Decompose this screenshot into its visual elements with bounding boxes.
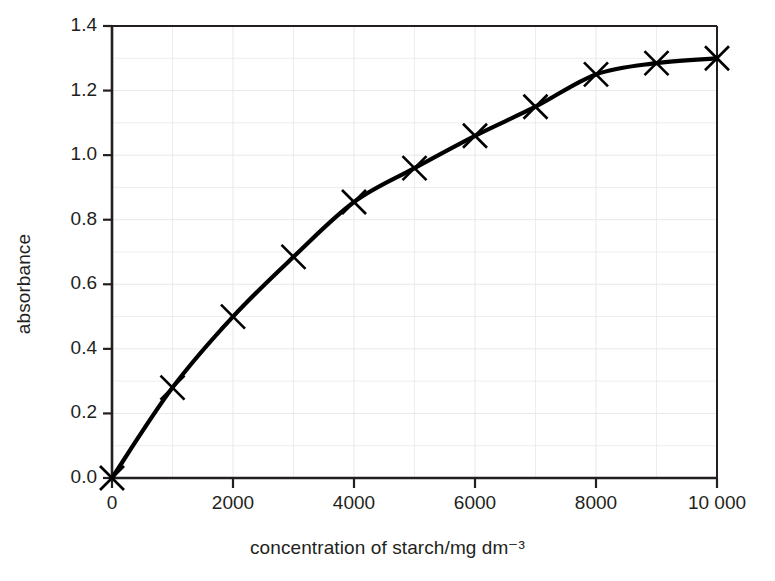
y-tick-label: 0.6 [33,272,97,294]
x-axis-title: concentration of starch/mg dm⁻³ [0,536,775,559]
y-tick-label: 1.2 [33,79,97,101]
x-tick-label: 0 [52,492,172,514]
y-axis-title: absorbance [13,194,35,374]
y-tick-label: 0.4 [33,337,97,359]
x-tick-label: 8000 [536,492,656,514]
y-tick-label: 0.0 [33,466,97,488]
x-tick-label: 4000 [294,492,414,514]
axis-ticks-group [103,26,717,488]
chart-figure: 0.00.20.40.60.81.01.21.4 020004000600080… [0,0,775,581]
y-tick-label: 1.4 [33,14,97,36]
x-tick-label: 10 000 [657,492,775,514]
y-tick-label: 0.2 [33,401,97,423]
x-tick-label: 2000 [173,492,293,514]
y-tick-label: 1.0 [33,143,97,165]
x-tick-label: 6000 [415,492,535,514]
y-tick-label: 0.8 [33,208,97,230]
gridlines-group [112,26,717,478]
